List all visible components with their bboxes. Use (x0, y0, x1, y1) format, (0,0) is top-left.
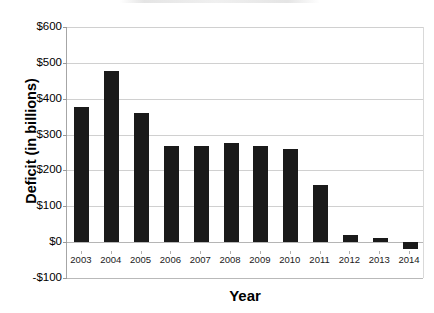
bar (253, 146, 268, 242)
bar (74, 107, 89, 242)
plot-area (66, 27, 424, 278)
y-axis-tick-label: $100 (8, 199, 62, 211)
bar (104, 71, 119, 242)
bar (224, 143, 239, 242)
bar (134, 113, 149, 242)
y-axis-tick-label: $600 (8, 20, 62, 32)
bar (194, 146, 209, 242)
x-axis-tick-label: 2014 (391, 254, 427, 265)
bar (313, 185, 328, 242)
bar (343, 235, 358, 243)
x-axis-title: Year (66, 287, 424, 304)
bar (164, 146, 179, 242)
bars-layer (67, 27, 423, 278)
y-axis-tick-label: $200 (8, 163, 62, 175)
bar (283, 149, 298, 242)
y-axis-tick-label: $400 (8, 92, 62, 104)
bar (373, 238, 388, 242)
y-axis-tick-mark (63, 278, 67, 279)
y-axis-tick-label: -$100 (8, 271, 62, 283)
bar (403, 242, 418, 248)
gridline (67, 278, 423, 279)
y-axis-tick-label: $0 (8, 235, 62, 247)
y-axis-tick-label: $300 (8, 128, 62, 140)
clipped-title-strip (120, 0, 320, 3)
bar-chart: Deficit (in billions) $600$500$400$300$2… (0, 0, 434, 313)
y-axis-tick-label: $500 (8, 56, 62, 68)
